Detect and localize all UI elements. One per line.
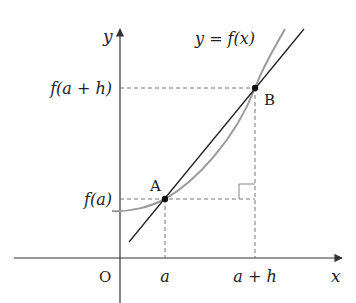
x-axis-label: x: [331, 266, 341, 286]
x-tick-a-plus-h: a + h: [233, 267, 276, 286]
point-A: [162, 196, 168, 202]
point-A-label: A: [149, 177, 161, 195]
point-B: [252, 85, 258, 91]
right-angle-marker: [239, 184, 255, 199]
point-B-label: B: [264, 91, 275, 109]
y-tick-f-a: f(a): [83, 190, 112, 209]
y-axis-label: y: [102, 26, 113, 46]
secant-line-AB: [129, 29, 304, 242]
y-tick-f-a-plus-h: f(a + h): [49, 79, 112, 98]
origin-label: O: [99, 268, 111, 286]
diagram: y x O y = f(x) f(a + h) f(a) a a + h A B: [0, 0, 356, 303]
x-tick-a: a: [160, 267, 170, 286]
curve-label: y = f(x): [194, 29, 255, 48]
curve-f-of-x: [112, 29, 285, 211]
